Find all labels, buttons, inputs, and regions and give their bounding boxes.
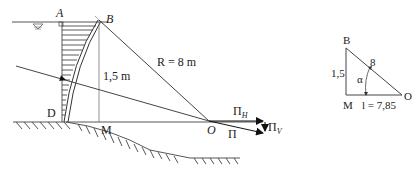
label-O: O: [207, 123, 216, 137]
label-force-v: ΠV: [268, 120, 283, 136]
label-B: B: [106, 12, 114, 26]
water-level-icon: [33, 24, 43, 29]
label-D: D: [47, 106, 56, 120]
label-M: M: [101, 123, 112, 137]
tri-label-angle: α: [357, 73, 363, 85]
angle-arc: [366, 67, 371, 95]
label-radius: R = 8 m: [157, 55, 197, 69]
tri-label-M: M: [343, 99, 353, 111]
ground: [13, 122, 263, 164]
label-force-h: ΠH: [233, 104, 249, 120]
force-arrows: [209, 121, 265, 133]
tri-label-B: B: [343, 34, 350, 46]
tri-label-vertical: 1,5: [331, 67, 345, 79]
right-angle-mark: [59, 22, 63, 26]
triangle-diagram: B M O 1,5 8 α l = 7,85: [331, 34, 412, 111]
radial-gate-diagram: A B D M O 1,5 m R = 8 m Π ΠH ΠV B M O 1,…: [0, 0, 418, 184]
tri-label-horizontal: l = 7,85: [362, 99, 397, 111]
label-height: 1,5 m: [103, 69, 131, 83]
label-force-total: Π: [228, 127, 237, 141]
label-A: A: [55, 6, 64, 20]
tri-label-O: O: [404, 90, 412, 102]
tri-label-hypotenuse: 8: [370, 56, 376, 68]
